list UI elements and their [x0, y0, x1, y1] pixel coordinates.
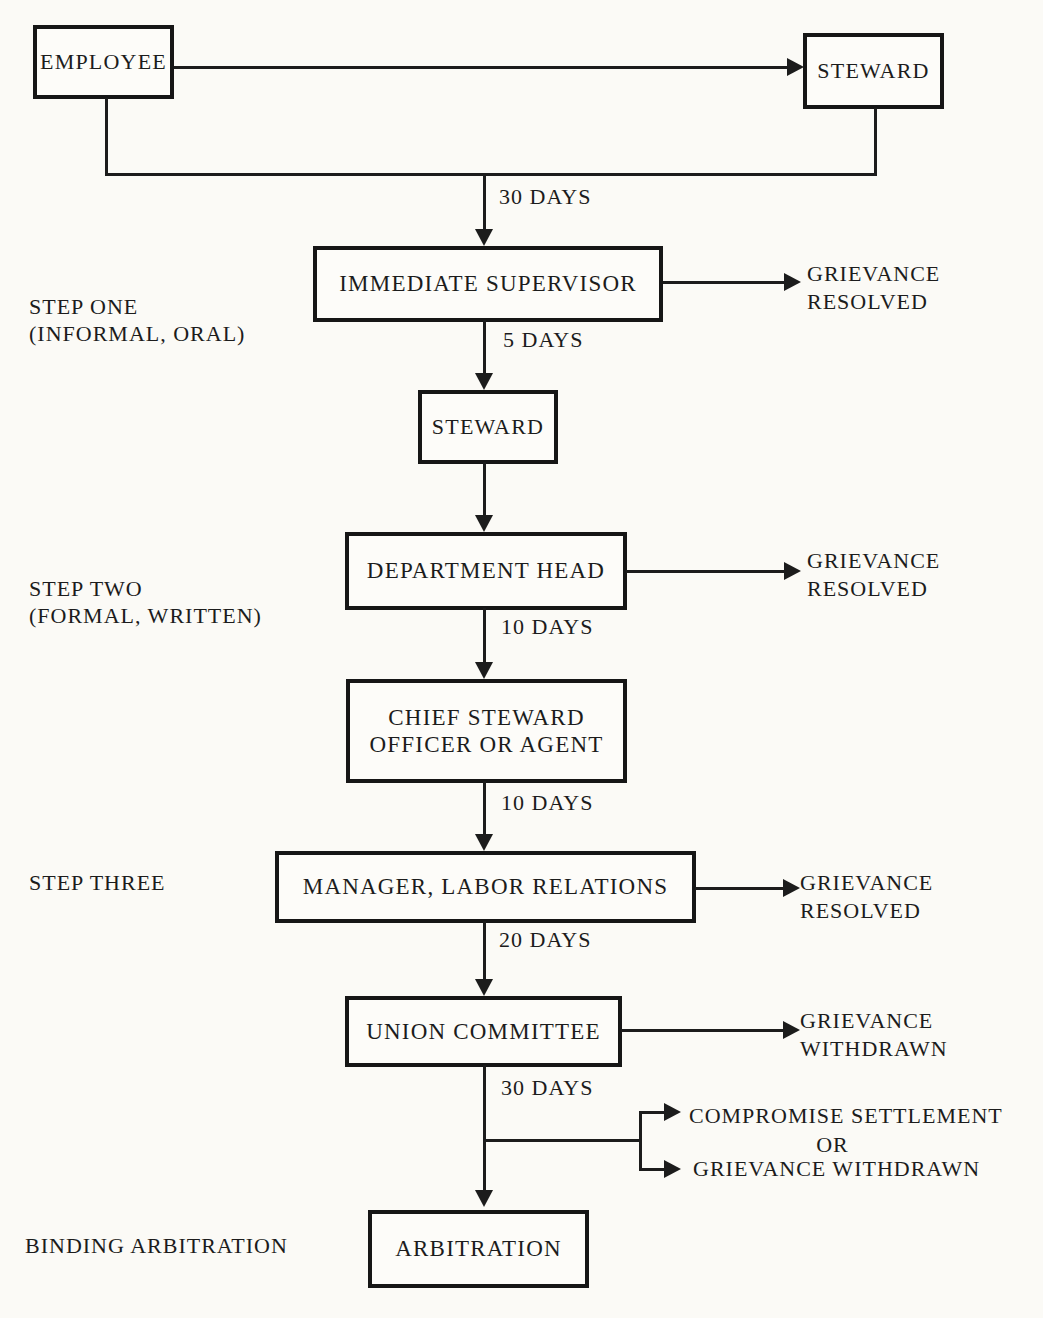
flowchart-box-immediate-supervisor: IMMEDIATE SUPERVISOR [313, 246, 663, 322]
connector-employee-down [105, 98, 108, 176]
connector-steward-to-department-head [483, 462, 486, 517]
arrowhead-into-arbitration [475, 1190, 493, 1207]
arrowhead-into-chief-steward [475, 662, 493, 679]
outcome-label-grievance-resolved-3: GRIEVANCE RESOLVED [800, 869, 933, 925]
flowchart-box-employee: EMPLOYEE [33, 25, 174, 99]
duration-label-30-days-2: 30 DAYS [501, 1076, 593, 1100]
arrowhead-into-union-committee [475, 979, 493, 996]
flowchart-box-union-committee: UNION COMMITTEE [345, 996, 622, 1067]
arrowhead-into-department-head [475, 515, 493, 532]
connector-supervisor-to-steward [483, 320, 486, 375]
connector-manager-to-union [483, 921, 486, 981]
arrowhead-into-supervisor [475, 229, 493, 246]
connector-union-to-withdrawn [621, 1029, 784, 1032]
connector-branch-top [639, 1111, 666, 1114]
duration-label-10-days-1: 10 DAYS [501, 615, 593, 639]
stage-label-binding-arbitration: BINDING ARBITRATION [25, 1232, 288, 1259]
connector-supervisor-to-resolved [663, 281, 785, 284]
outcome-label-compromise-settlement: COMPROMISE SETTLEMENT [689, 1102, 1003, 1130]
connector-union-to-arbitration [483, 1065, 486, 1192]
arrowhead-into-steward [475, 373, 493, 390]
duration-label-10-days-2: 10 DAYS [501, 791, 593, 815]
connector-merge-to-supervisor [483, 173, 486, 231]
duration-label-5-days: 5 DAYS [503, 328, 583, 352]
arrowhead-department-head-resolved [784, 562, 801, 580]
connector-steward-down [874, 108, 877, 176]
arrowhead-into-manager [475, 834, 493, 851]
arrowhead-into-steward-top [787, 58, 804, 76]
flowchart-box-chief-steward: CHIEF STEWARD OFFICER OR AGENT [346, 679, 627, 783]
flowchart-box-arbitration: ARBITRATION [368, 1210, 589, 1288]
connector-department-head-to-resolved [626, 570, 785, 573]
connector-merge-horizontal [105, 173, 876, 176]
outcome-label-grievance-resolved-2: GRIEVANCE RESOLVED [807, 547, 940, 603]
duration-label-20-days: 20 DAYS [499, 928, 591, 952]
outcome-label-grievance-resolved-1: GRIEVANCE RESOLVED [807, 260, 940, 316]
flowchart-box-manager-labor-relations: MANAGER, LABOR RELATIONS [275, 851, 696, 923]
connector-manager-to-resolved [695, 887, 784, 890]
flowchart-box-steward-top: STEWARD [803, 33, 944, 109]
arrowhead-manager-resolved [783, 879, 800, 897]
connector-employee-to-steward [174, 66, 788, 69]
arrowhead-union-withdrawn [783, 1021, 800, 1039]
stage-label-step-two: STEP TWO (FORMAL, WRITTEN) [29, 575, 262, 629]
arrowhead-grievance-withdrawn [664, 1160, 681, 1178]
grievance-procedure-flowchart: EMPLOYEE STEWARD IMMEDIATE SUPERVISOR ST… [0, 0, 1043, 1318]
flowchart-box-steward: STEWARD [418, 390, 558, 464]
duration-label-30-days: 30 DAYS [499, 185, 591, 209]
flowchart-box-department-head: DEPARTMENT HEAD [345, 532, 627, 610]
stage-label-step-three: STEP THREE [29, 869, 166, 896]
connector-chief-to-manager [483, 781, 486, 836]
connector-department-head-to-chief [483, 608, 486, 664]
arrowhead-supervisor-resolved [784, 273, 801, 291]
stage-label-step-one: STEP ONE (INFORMAL, ORAL) [29, 293, 245, 347]
arrowhead-compromise-settlement [664, 1103, 681, 1121]
outcome-label-grievance-withdrawn-2: GRIEVANCE WITHDRAWN [693, 1155, 980, 1183]
connector-branch-bracket [639, 1111, 642, 1171]
connector-branch-horizontal [483, 1139, 640, 1142]
connector-branch-bottom [639, 1168, 666, 1171]
outcome-label-grievance-withdrawn: GRIEVANCE WITHDRAWN [800, 1007, 948, 1063]
